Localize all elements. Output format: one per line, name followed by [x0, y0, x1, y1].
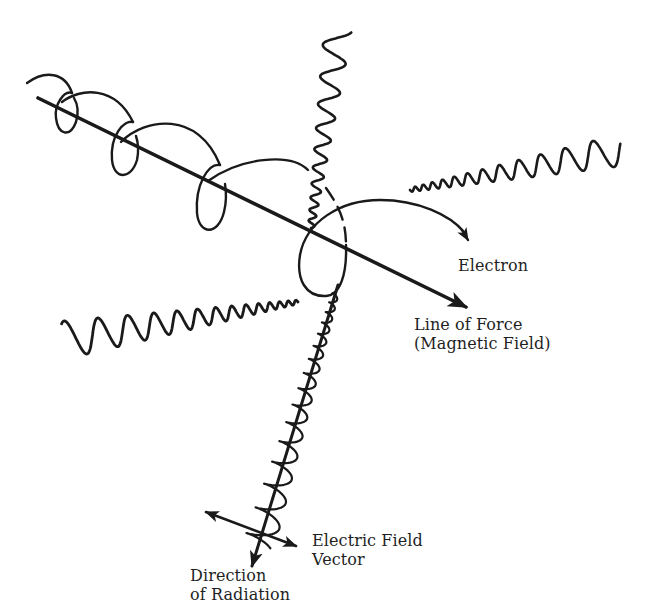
- label-direction-of-radiation: Direction of Radiation: [190, 566, 290, 604]
- electron-helix: [27, 75, 468, 296]
- electron-label-text: Electron: [458, 256, 528, 275]
- wave-up: [309, 33, 352, 229]
- line-of-force-text: Line of Force: [414, 315, 551, 334]
- magnetic-field-text: (Magnetic Field): [414, 334, 551, 353]
- wave-left: [62, 300, 298, 354]
- electric-field-text: Electric Field: [312, 531, 423, 550]
- direction-text: Direction: [190, 566, 290, 585]
- wave-right: [410, 141, 620, 192]
- label-electric-field-vector: Electric Field Vector: [312, 531, 423, 569]
- of-radiation-text: of Radiation: [190, 585, 290, 604]
- label-line-of-force: Line of Force (Magnetic Field): [414, 315, 551, 353]
- direction-of-radiation-arrow: [252, 285, 338, 566]
- radiation-waves: [62, 33, 621, 549]
- label-electron: Electron: [458, 256, 528, 275]
- vector-text: Vector: [312, 550, 423, 569]
- electric-field-vector-arrow: [206, 512, 296, 546]
- synchrotron-diagram: [0, 0, 646, 611]
